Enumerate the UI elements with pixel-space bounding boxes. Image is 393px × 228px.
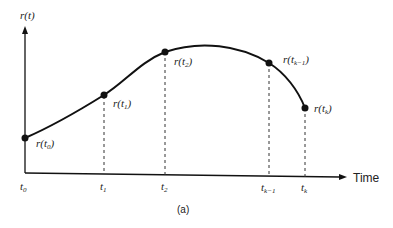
point-t2: [162, 49, 169, 56]
caption: (a): [177, 204, 189, 215]
tick-t1: t1: [100, 180, 107, 194]
y-axis-label: r(t): [20, 9, 35, 22]
label-r-t2: r(t2): [174, 55, 193, 69]
point-t0: [22, 135, 29, 142]
x-axis: [25, 173, 340, 177]
label-r-tk: r(tk): [314, 102, 332, 116]
x-axis-arrow-icon: [339, 174, 347, 180]
tick-t2: t2: [161, 180, 168, 194]
tick-t0: t0: [20, 180, 27, 194]
label-r-t1: r(t1): [113, 97, 132, 111]
tick-tk: tk: [301, 181, 308, 195]
point-tk-1: [266, 60, 273, 67]
y-axis-arrow-icon: [22, 26, 28, 34]
x-axis-label: Time: [353, 171, 380, 185]
trajectory-diagram: r(t) Time (a) r(t0) r(t1) r(t2) r(tk−1) …: [0, 0, 393, 228]
label-r-t0: r(t0): [36, 137, 55, 151]
tick-tk-1: tk−1: [261, 181, 275, 195]
point-tk: [302, 105, 309, 112]
label-r-tk-1: r(tk−1): [283, 53, 309, 67]
point-t1: [101, 92, 108, 99]
